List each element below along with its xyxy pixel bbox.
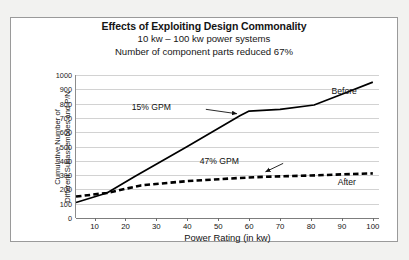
annotation-15-gpm: 15% GPM bbox=[132, 102, 171, 112]
x-axis-label: Power Rating (in kw) bbox=[76, 232, 379, 243]
chart-title: Effects of Exploiting Design Commonality bbox=[11, 20, 397, 33]
x-axis-tick-label: 100 bbox=[366, 222, 379, 231]
title-block: Effects of Exploiting Design Commonality… bbox=[11, 20, 397, 58]
y-axis-tick-label: 300 bbox=[60, 171, 72, 180]
y-axis-tick-label: 1000 bbox=[56, 71, 72, 80]
x-axis-tick-mark bbox=[373, 218, 374, 221]
x-axis-tick-mark bbox=[311, 218, 312, 221]
x-axis-tick-mark bbox=[95, 218, 96, 221]
x-axis-tick-mark bbox=[187, 218, 188, 221]
x-axis-tick-label: 90 bbox=[338, 222, 347, 231]
x-axis-tick-mark bbox=[125, 218, 126, 221]
annotation-leader-15-gpm bbox=[206, 109, 237, 113]
series-label-before: Before bbox=[332, 86, 357, 96]
series-label-after: After bbox=[338, 177, 356, 187]
y-axis-tick-label: 0 bbox=[68, 214, 72, 223]
y-axis-label-wrap: Cumulative Number of Different Subassemb… bbox=[29, 75, 30, 218]
y-axis-tick-label: 700 bbox=[60, 113, 72, 122]
x-axis-tick-label: 40 bbox=[183, 222, 192, 231]
chart-figure: Effects of Exploiting Design Commonality… bbox=[10, 17, 398, 242]
x-axis-tick-label: 50 bbox=[214, 222, 223, 231]
x-axis-tick-mark bbox=[342, 218, 343, 221]
annotation-47-gpm: 47% GPM bbox=[200, 156, 239, 166]
y-axis-tick-label: 500 bbox=[60, 142, 72, 151]
annotation-leader-47-gpm bbox=[266, 163, 284, 171]
series-line-before bbox=[76, 82, 373, 202]
y-axis-tick-label: 400 bbox=[60, 156, 72, 165]
y-axis-tick-label: 100 bbox=[60, 199, 72, 208]
x-axis-tick-mark bbox=[218, 218, 219, 221]
y-axis-tick-label: 200 bbox=[60, 185, 72, 194]
plot-area: 01002003004005006007008009001000 1020304… bbox=[76, 75, 379, 218]
x-axis-tick-mark bbox=[156, 218, 157, 221]
x-axis-tick-mark bbox=[249, 218, 250, 221]
chart-subtitle-line-2: Number of component parts reduced 67% bbox=[11, 46, 397, 59]
y-axis-tick-label: 600 bbox=[60, 128, 72, 137]
gridline: 0 bbox=[76, 218, 379, 219]
x-axis-tick-label: 10 bbox=[90, 222, 99, 231]
x-axis-tick-label: 80 bbox=[307, 222, 316, 231]
x-axis-tick-label: 60 bbox=[245, 222, 254, 231]
chart-subtitle-line-1: 10 kw – 100 kw power systems bbox=[11, 33, 397, 46]
y-axis-tick-label: 900 bbox=[60, 85, 72, 94]
data-curves bbox=[76, 75, 379, 218]
x-axis-tick-label: 30 bbox=[152, 222, 161, 231]
x-axis-tick-mark bbox=[280, 218, 281, 221]
x-axis-tick-label: 20 bbox=[121, 222, 130, 231]
x-axis-tick-label: 70 bbox=[276, 222, 285, 231]
y-axis-tick-label: 800 bbox=[60, 99, 72, 108]
